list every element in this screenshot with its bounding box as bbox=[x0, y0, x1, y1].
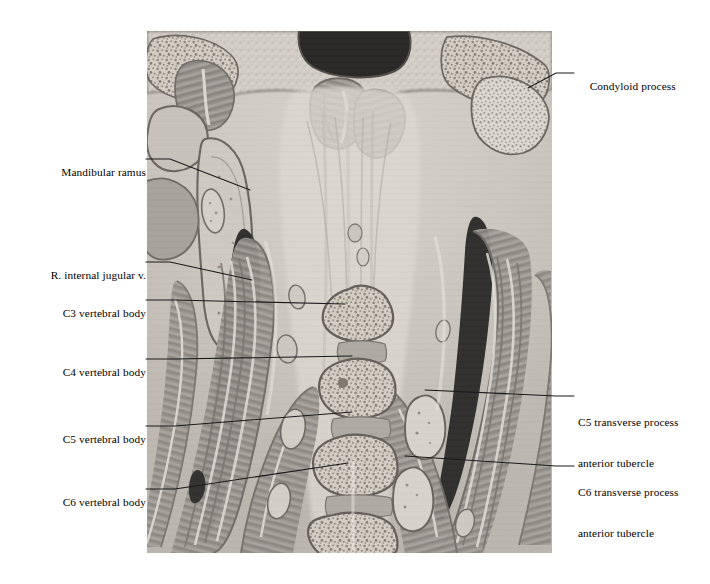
label-text-line1: C6 transverse process bbox=[578, 486, 679, 500]
label-text: Mandibular ramus bbox=[61, 166, 146, 178]
label-mandibular-ramus: Mandibular ramus bbox=[0, 152, 150, 193]
label-c3-vertebral-body: C3 vertebral body bbox=[0, 293, 150, 334]
label-r-internal-jugular-vein: R. internal jugular v. bbox=[0, 255, 150, 296]
label-text: C4 vertebral body bbox=[63, 366, 146, 378]
label-condyloid-process: Condyloid process bbox=[578, 66, 676, 107]
label-text: C5 vertebral body bbox=[63, 433, 146, 445]
anatomical-plate: Mandibular ramus R. internal jugular v. … bbox=[0, 0, 710, 584]
label-text: Condyloid process bbox=[590, 80, 676, 92]
label-c5-vertebral-body: C5 vertebral body bbox=[0, 419, 150, 460]
label-c6-vertebral-body: C6 vertebral body bbox=[0, 482, 150, 523]
label-text: C6 vertebral body bbox=[63, 496, 146, 508]
label-text: R. internal jugular v. bbox=[51, 269, 146, 281]
label-c4-vertebral-body: C4 vertebral body bbox=[0, 352, 150, 393]
label-c6-transverse-process-anterior-tubercle: C6 transverse process anterior tubercle bbox=[578, 459, 679, 567]
label-text: C3 vertebral body bbox=[63, 307, 146, 319]
label-text-line1: C5 transverse process bbox=[578, 416, 679, 430]
label-text-line2: anterior tubercle bbox=[578, 527, 679, 541]
